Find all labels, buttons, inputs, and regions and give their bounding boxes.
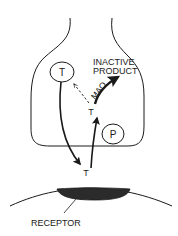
- presynaptic-terminal-outline: [31, 18, 144, 146]
- repackaging-arrow: [74, 84, 89, 103]
- receptor-label: RECEPTOR: [31, 218, 81, 228]
- synapse-diagram: T P MAO INACTIVE PRODUCT T T RECEPTOR: [0, 0, 178, 236]
- reuptake-arrow: [91, 118, 97, 168]
- release-arrow: [60, 82, 80, 164]
- cleft-transmitter-label: T: [83, 168, 89, 178]
- receptor-region: [57, 188, 130, 200]
- mao-label: MAO: [89, 80, 109, 102]
- cytoplasm-transmitter-label: T: [88, 107, 94, 117]
- receptor-leader-line: [64, 199, 76, 213]
- transporter: P: [102, 124, 124, 144]
- inactive-product-line2: PRODUCT: [93, 66, 138, 76]
- vesicle: T: [50, 62, 74, 82]
- vesicle-label: T: [59, 67, 65, 78]
- transporter-label: P: [110, 129, 117, 140]
